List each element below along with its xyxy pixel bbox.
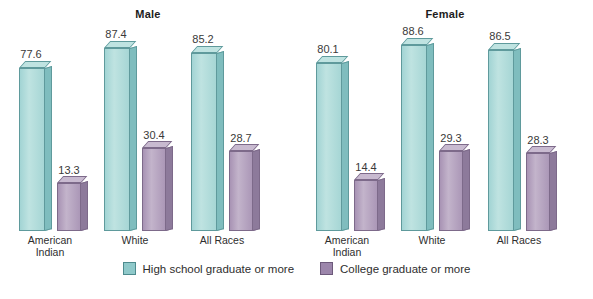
bar-chart: Male 77.6 13.3 American Indian 87.4 30.4	[0, 0, 593, 299]
panel-male: Male 77.6 13.3 American Indian 87.4 30.4	[0, 0, 296, 299]
value-label-female-hs-2: 86.5	[477, 30, 523, 42]
value-label-male-col-2: 28.7	[218, 132, 264, 144]
category-label-male-1: White	[90, 234, 180, 246]
legend-item-high-school: High school graduate or more	[123, 262, 295, 275]
value-label-male-col-0: 13.3	[46, 164, 92, 176]
value-label-male-col-1: 30.4	[131, 129, 177, 141]
value-label-male-hs-1: 87.4	[93, 28, 139, 40]
value-label-female-col-2: 28.3	[515, 134, 561, 146]
panel-title-male: Male	[0, 8, 296, 20]
panel-title-female: Female	[297, 8, 593, 20]
category-label-female-1: White	[387, 234, 477, 246]
category-label-line2: Indian	[302, 246, 392, 258]
category-label-male-2: All Races	[177, 234, 267, 246]
bar-side-face	[81, 181, 88, 231]
bar-female-col-2	[526, 153, 550, 231]
bar-female-hs-2	[488, 50, 514, 231]
panel-female: Female 80.1 14.4 American Indian 88.6 29…	[297, 0, 593, 299]
category-label-line2: Indian	[5, 246, 95, 258]
category-label-female-2: All Races	[474, 234, 564, 246]
bar-front-face	[488, 50, 514, 231]
bar-side-face	[463, 149, 470, 231]
bar-front-face	[439, 151, 463, 231]
category-label-male-0: American Indian	[5, 234, 95, 258]
bar-front-face	[229, 151, 253, 231]
category-label-line1: White	[90, 234, 180, 246]
bar-front-face	[526, 153, 550, 231]
bar-front-face	[401, 45, 427, 231]
bar-male-col-1	[142, 148, 166, 231]
legend-label-college: College graduate or more	[340, 263, 470, 275]
category-label-line1: American	[5, 234, 95, 246]
category-label-line1: American	[302, 234, 392, 246]
value-label-female-col-0: 14.4	[343, 161, 389, 173]
bar-female-col-1	[439, 151, 463, 231]
bar-male-col-2	[229, 151, 253, 231]
bar-side-face	[378, 178, 385, 231]
bar-front-face	[142, 148, 166, 231]
bar-male-hs-2	[191, 53, 217, 231]
category-label-line1: All Races	[474, 234, 564, 246]
value-label-female-col-1: 29.3	[428, 132, 474, 144]
value-label-male-hs-2: 85.2	[180, 33, 226, 45]
bar-side-face	[253, 149, 260, 231]
legend-item-college: College graduate or more	[320, 262, 470, 275]
bar-front-face	[57, 183, 81, 231]
category-label-female-0: American Indian	[302, 234, 392, 258]
legend-swatch-college-icon	[320, 262, 333, 275]
bar-front-face	[354, 180, 378, 231]
bar-male-hs-0	[19, 68, 45, 231]
category-label-line1: All Races	[177, 234, 267, 246]
bar-front-face	[316, 63, 342, 231]
bar-side-face	[342, 61, 349, 231]
bar-front-face	[191, 53, 217, 231]
value-label-female-hs-0: 80.1	[305, 43, 351, 55]
bar-male-hs-1	[104, 48, 130, 231]
bar-female-hs-0	[316, 63, 342, 231]
bar-female-col-0	[354, 180, 378, 231]
legend-swatch-high-school-icon	[123, 262, 136, 275]
category-label-line1: White	[387, 234, 477, 246]
bar-front-face	[104, 48, 130, 231]
bar-male-col-0	[57, 183, 81, 231]
bar-front-face	[19, 68, 45, 231]
value-label-female-hs-1: 88.6	[390, 25, 436, 37]
chart-legend: High school graduate or more College gra…	[0, 262, 593, 275]
bar-side-face	[166, 146, 173, 231]
bar-side-face	[45, 66, 52, 231]
legend-label-high-school: High school graduate or more	[143, 263, 295, 275]
bar-female-hs-1	[401, 45, 427, 231]
bar-side-face	[550, 151, 557, 231]
value-label-male-hs-0: 77.6	[8, 48, 54, 60]
